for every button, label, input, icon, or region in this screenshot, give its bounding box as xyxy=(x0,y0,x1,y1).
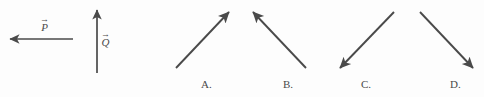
choice-label-b[interactable]: B. xyxy=(283,79,293,90)
vector-p-symbol: P xyxy=(40,22,49,33)
vector-question-figure: → P → Q A. B. C. D. xyxy=(0,0,484,97)
choice-arrow-a[interactable] xyxy=(176,12,229,68)
choice-c-arrow[interactable] xyxy=(340,12,394,68)
choice-arrow-b[interactable] xyxy=(253,12,306,68)
vector-q-symbol: Q xyxy=(101,37,110,48)
choice-d-arrow[interactable] xyxy=(420,12,473,68)
vector-p-label: → P xyxy=(40,17,49,33)
choice-a-arrow[interactable] xyxy=(176,12,229,68)
choice-label-a[interactable]: A. xyxy=(201,79,212,90)
choice-label-d[interactable]: D. xyxy=(450,79,461,90)
vector-diagram-canvas xyxy=(0,0,484,97)
choice-b-arrow[interactable] xyxy=(253,12,306,68)
choice-arrow-d[interactable] xyxy=(420,12,473,68)
vector-q-label: → Q xyxy=(101,32,110,48)
choice-label-c[interactable]: C. xyxy=(361,79,371,90)
choice-arrow-c[interactable] xyxy=(340,12,394,68)
